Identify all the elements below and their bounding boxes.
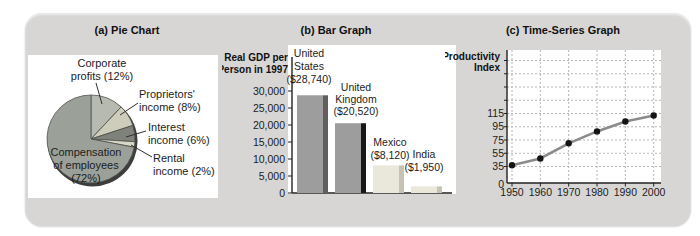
data-point (594, 128, 600, 134)
bar-y-axis-title: Person in 1997 (222, 64, 288, 75)
bar-label: United (294, 47, 325, 59)
line-x-tick-label: 1960 (529, 186, 553, 198)
bar-graph-title: (b) Bar Graph (236, 24, 436, 36)
bar (335, 123, 361, 193)
pie-label-rental-income: Rental income (2%) (153, 152, 215, 178)
figure-canvas: (a) Pie Chart (b) Bar Graph (c) Time-Ser… (0, 0, 700, 236)
pie-label-line: Interest (148, 121, 210, 134)
line-y-tick-label: 55 (492, 147, 504, 159)
pie-label-proprietors-income: Proprietors' income (8%) (139, 88, 201, 114)
bar (297, 95, 323, 193)
bar-y-tick-label: 25,000 (253, 102, 285, 114)
line-y-axis-title: Productivity (445, 51, 500, 62)
line-x-tick-label: 1980 (585, 186, 609, 198)
bar-shadow (361, 123, 366, 193)
pie-label-line: income (6%) (148, 134, 210, 147)
pie-label-line: Compensation (31, 146, 141, 159)
bar-shadow (399, 165, 404, 193)
bar (373, 165, 399, 193)
line-y-tick-label: 115 (487, 107, 504, 119)
bar-y-tick-label: 15,000 (253, 136, 285, 148)
bar-label: Kingdom (335, 93, 377, 105)
pie-label-line: income (8%) (139, 101, 201, 114)
line-y-tick-label: 95 (492, 120, 504, 132)
bar-label: ($1,950) (404, 161, 443, 173)
line-x-tick-label: 1990 (614, 186, 638, 198)
data-point (622, 118, 628, 124)
bar-y-tick-label: 5,000 (259, 170, 285, 182)
time-series-svg: ProductivityIndex19501960197019801990200… (445, 40, 700, 215)
pie-chart-panel: Corporate profits (12%) Proprietors' inc… (28, 55, 218, 198)
line-y-tick-label: 75 (492, 134, 504, 146)
bar-graph-svg: Real GDP perPerson in 199705,00010,00015… (222, 40, 460, 215)
bar-y-tick-label: 10,000 (253, 153, 285, 165)
line-y-tick-label: 0 (498, 178, 504, 190)
bar-y-tick-label: 20,000 (253, 119, 285, 131)
line-y-tick-label: 35 (492, 160, 504, 172)
line-x-tick-label: 1970 (557, 186, 581, 198)
pie-label-line: Proprietors' (139, 88, 201, 101)
time-series-title: (c) Time-Series Graph (463, 24, 663, 36)
pie-chart-title: (a) Pie Chart (30, 24, 224, 36)
data-point (509, 162, 515, 168)
bar-label: ($20,520) (334, 105, 379, 117)
bar (411, 186, 437, 193)
bar-label: States (294, 60, 324, 72)
bar-shadow (437, 186, 442, 193)
pie-label-interest-income: Interest income (6%) (148, 121, 210, 147)
figure-card: (a) Pie Chart (b) Bar Graph (c) Time-Ser… (25, 13, 691, 226)
line-y-axis-title: Index (474, 62, 501, 73)
data-point (651, 112, 657, 118)
pie-label-line: Rental (153, 152, 215, 165)
bar-shadow (323, 95, 328, 193)
bar-label: Mexico (373, 136, 406, 148)
bar-label: United (341, 81, 372, 93)
pie-label-line: (72%) (31, 172, 141, 185)
bar-label: ($8,120) (370, 149, 409, 161)
pie-label-line: profits (12%) (52, 70, 152, 83)
pie-label-line: of employees (31, 159, 141, 172)
pie-label-compensation-of-employees: Compensation of employees (72%) (31, 146, 141, 185)
bar-y-tick-label: 0 (279, 187, 285, 199)
data-point (565, 140, 571, 146)
bar-label: ($28,740) (287, 73, 332, 85)
pie-label-corporate-profits: Corporate profits (12%) (52, 57, 152, 83)
line-x-tick-label: 2000 (642, 186, 666, 198)
bar-y-axis-title: Real GDP per (224, 52, 288, 63)
bar-label: India (413, 148, 436, 160)
pie-label-line: Corporate (52, 57, 152, 70)
bar-y-tick-label: 30,000 (253, 85, 285, 97)
pie-label-line: income (2%) (153, 165, 215, 178)
data-point (537, 155, 543, 161)
